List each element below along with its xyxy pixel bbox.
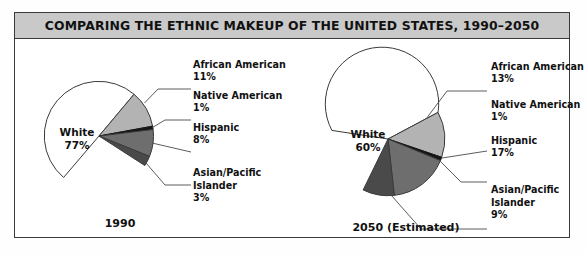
plot-area: White 77% African American 11% Native Am…	[15, 39, 569, 238]
callout-percent: 17%	[491, 147, 537, 159]
callout-name: Native American	[193, 90, 282, 101]
callout-african-american-2050: African American 13%	[491, 61, 584, 86]
pie-chart-1990: White 77% African American 11% Native Am…	[15, 39, 301, 238]
center-label-name: White	[351, 128, 386, 140]
callout-percent: 13%	[491, 73, 584, 85]
callout-name: Asian/Pacific Islander	[193, 167, 261, 190]
callout-native-american-2050: Native American 1%	[491, 99, 580, 124]
callout-percent: 3%	[193, 192, 261, 204]
callout-hispanic-2050: Hispanic 17%	[491, 135, 537, 160]
callout-name: Hispanic	[193, 122, 239, 133]
callout-asian-pacific-islander-2050: Asian/Pacific Islander 9%	[491, 172, 559, 234]
callout-percent: 11%	[193, 71, 286, 83]
callout-name: Asian/Pacific Islander	[491, 184, 559, 207]
center-label-white-2050: White 60%	[334, 128, 402, 155]
center-label-percent: 77%	[64, 139, 89, 151]
screenshot-root: COMPARING THE ETHNIC MAKEUP OF THE UNITE…	[0, 0, 586, 255]
callout-percent: 8%	[193, 134, 239, 146]
callout-name: African American	[491, 61, 584, 72]
figure-frame: COMPARING THE ETHNIC MAKEUP OF THE UNITE…	[14, 12, 570, 238]
callout-name: African American	[193, 59, 286, 70]
callout-name: Native American	[491, 99, 580, 110]
center-label-name: White	[60, 126, 95, 138]
callout-hispanic-1990: Hispanic 8%	[193, 122, 239, 147]
callout-name: Hispanic	[491, 135, 537, 146]
leader-line-native-american	[442, 151, 487, 158]
callout-percent: 1%	[491, 111, 580, 123]
center-label-percent: 60%	[355, 141, 380, 153]
center-label-white-1990: White 77%	[43, 126, 111, 153]
callout-percent: 9%	[491, 209, 559, 221]
year-caption-2050: 2050 (Estimated)	[341, 221, 471, 234]
callout-native-american-1990: Native American 1%	[193, 90, 282, 115]
figure-title-bar: COMPARING THE ETHNIC MAKEUP OF THE UNITE…	[15, 13, 569, 39]
leader-line-hispanic	[440, 161, 487, 182]
year-caption-1990: 1990	[73, 217, 167, 230]
figure-title: COMPARING THE ETHNIC MAKEUP OF THE UNITE…	[45, 18, 540, 33]
callout-asian-pacific-islander-1990: Asian/Pacific Islander 3%	[193, 155, 261, 217]
callout-percent: 1%	[193, 102, 282, 114]
pie-chart-2050: White 60% African American 13% Native Am…	[301, 39, 571, 238]
leader-line-hispanic	[152, 143, 191, 152]
leader-line-asian-pacific-islander	[146, 163, 191, 185]
leader-line-native-american	[153, 120, 192, 128]
leader-line-african-american	[145, 89, 192, 103]
callout-african-american-1990: African American 11%	[193, 59, 286, 84]
